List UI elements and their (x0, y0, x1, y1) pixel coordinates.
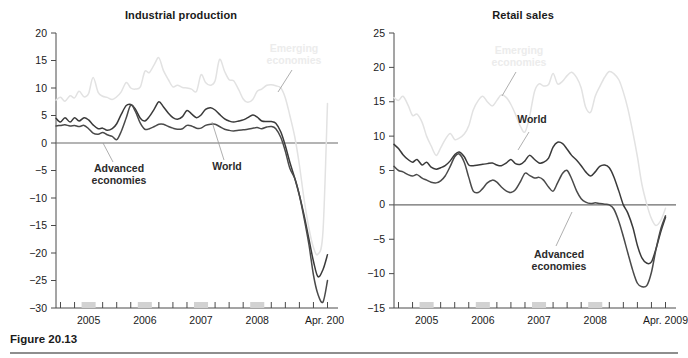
annotation-emerging-economies: economies (267, 54, 322, 66)
annotation-advanced-economies: Advanced (534, 248, 584, 260)
y-tick-label: −10 (367, 267, 385, 279)
plot-industrial-production: 20151050−5−10−15−20−25−30200520062007200… (0, 0, 344, 330)
series-line-world (56, 102, 328, 277)
y-tick-label: 0 (41, 137, 47, 149)
annotation-advanced-economies: economies (532, 260, 587, 272)
y-tick-label: 15 (373, 95, 385, 107)
chart-panel-industrial-production: Industrial production 20151050−5−10−15−2… (0, 0, 344, 330)
series-line-emerging-economies (394, 71, 666, 225)
y-tick-label: −30 (29, 302, 47, 314)
annotation-advanced-economies: Advanced (94, 162, 144, 174)
y-tick-label: −10 (29, 192, 47, 204)
caption-divider (10, 352, 678, 354)
y-tick-label: 15 (35, 54, 47, 66)
x-tick-label: 2005 (77, 314, 101, 326)
x-tick-label: 2008 (584, 314, 608, 326)
x-tick-label: 2007 (189, 314, 213, 326)
chart-panel-retail-sales: Retail sales 2520151050−5−10−15200520062… (344, 0, 688, 330)
y-tick-label: 10 (373, 130, 385, 142)
x-tick-label: 2006 (133, 314, 157, 326)
plot-retail-sales: 2520151050−5−10−152005200620072008Apr. 2… (344, 0, 688, 330)
figure-caption-text: Figure 20.13 (10, 333, 77, 345)
y-tick-label: −15 (367, 302, 385, 314)
y-tick-label: −25 (29, 274, 47, 286)
series-line-world (394, 142, 666, 264)
figure-root: Industrial production 20151050−5−10−15−2… (0, 0, 688, 358)
series-line-advanced-economies (394, 154, 666, 287)
y-tick-label: −5 (373, 233, 385, 245)
x-tick-label: 2006 (471, 314, 495, 326)
x-tick-label: Apr. 2009 (643, 314, 688, 326)
x-tick-label: 2005 (415, 314, 439, 326)
figure-caption-bar: Figure 20.13 (0, 330, 688, 358)
y-tick-label: 20 (373, 61, 385, 73)
y-tick-label: 25 (373, 27, 385, 39)
y-tick-label: 10 (35, 82, 47, 94)
annotation-emerging-economies: Emerging (270, 42, 318, 54)
y-tick-label: −20 (29, 247, 47, 259)
x-tick-label: 2008 (246, 314, 270, 326)
annotation-advanced-economies: economies (92, 174, 147, 186)
annotation-world: World (517, 113, 547, 125)
annotation-emerging-economies: Emerging (495, 44, 543, 56)
annotation-emerging-economies: economies (492, 56, 547, 68)
y-tick-label: 0 (379, 198, 385, 210)
y-tick-label: −15 (29, 219, 47, 231)
series-line-advanced-economies (56, 105, 328, 303)
x-tick-label: Apr. 2009 (305, 314, 344, 326)
x-tick-label: 2007 (527, 314, 551, 326)
y-tick-label: 5 (41, 109, 47, 121)
annotation-world: World (212, 160, 242, 172)
y-tick-label: 20 (35, 27, 47, 39)
y-tick-label: −5 (35, 164, 47, 176)
y-tick-label: 5 (379, 164, 385, 176)
